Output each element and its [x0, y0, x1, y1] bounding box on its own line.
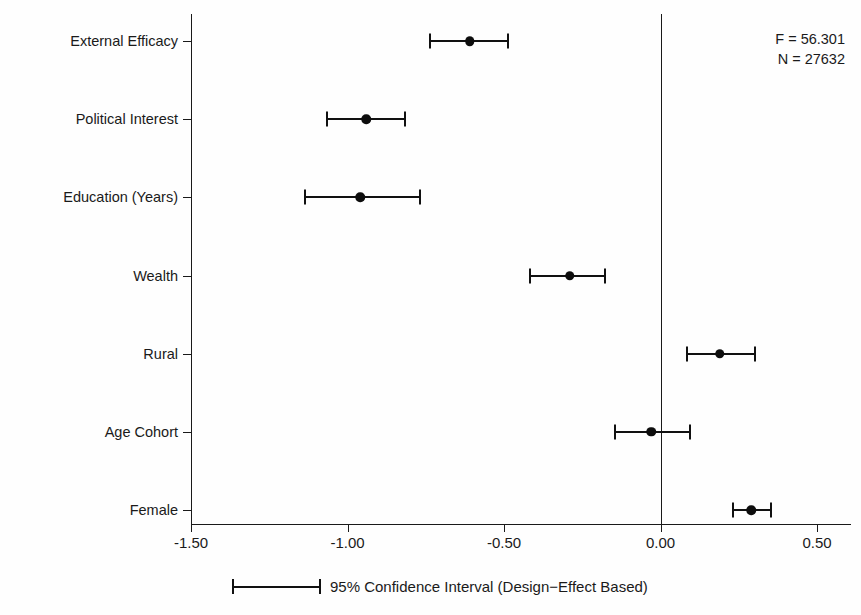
- y-axis-tick: [183, 41, 192, 42]
- estimate-point-marker: [355, 193, 365, 203]
- legend-label: 95% Confidence Interval (Design−Effect B…: [330, 579, 648, 594]
- estimate-point-marker: [465, 36, 475, 46]
- chart-legend: 95% Confidence Interval (Design−Effect B…: [232, 578, 648, 594]
- x-axis-tick: [817, 524, 818, 532]
- ci-upper-cap: [770, 503, 772, 518]
- x-axis-tick: [661, 524, 662, 532]
- category-label: Wealth: [133, 268, 178, 283]
- ci-upper-cap: [604, 268, 606, 283]
- coefficient-plot: External EfficacyPolitical InterestEduca…: [0, 0, 861, 615]
- n-observations-text: N = 27632: [775, 50, 845, 70]
- confidence-interval-icon: [232, 578, 321, 594]
- ci-upper-cap: [404, 112, 406, 127]
- ci-lower-cap: [326, 112, 328, 127]
- ci-lower-cap: [429, 34, 431, 49]
- ci-lower-cap: [529, 268, 531, 283]
- category-label: External Efficacy: [70, 34, 178, 49]
- ci-lower-cap: [304, 190, 306, 205]
- category-label: Education (Years): [63, 190, 178, 205]
- x-axis-tick: [348, 524, 349, 532]
- category-label: Rural: [143, 346, 178, 361]
- stats-annotation: F = 56.301 N = 27632: [775, 30, 845, 69]
- estimate-point-marker: [565, 271, 575, 281]
- estimate-point-marker: [747, 505, 757, 515]
- y-axis-tick: [183, 432, 192, 433]
- ci-lower-cap: [614, 424, 616, 439]
- y-axis-line: [191, 14, 192, 525]
- x-axis-tick-label: 0.00: [646, 535, 675, 550]
- ci-upper-cap: [754, 346, 756, 361]
- y-axis-tick: [183, 276, 192, 277]
- category-label: Female: [130, 503, 178, 518]
- estimate-point-marker: [362, 114, 372, 124]
- f-statistic-text: F = 56.301: [775, 30, 845, 50]
- ci-upper-cap: [689, 424, 691, 439]
- ci-upper-cap: [507, 34, 509, 49]
- x-axis-tick-label: -1.50: [174, 535, 208, 550]
- y-axis-tick: [183, 354, 192, 355]
- ci-upper-cap: [419, 190, 421, 205]
- x-axis-tick-label: -1.00: [330, 535, 364, 550]
- estimate-point-marker: [646, 427, 656, 437]
- zero-reference-line: [661, 14, 662, 525]
- ci-lower-cap: [686, 346, 688, 361]
- x-axis-tick: [504, 524, 505, 532]
- category-label: Political Interest: [76, 112, 178, 127]
- ci-lower-cap: [732, 503, 734, 518]
- x-axis-tick-label: -0.50: [487, 535, 521, 550]
- x-axis-line: [191, 524, 851, 525]
- category-label: Age Cohort: [105, 425, 178, 440]
- y-axis-tick: [183, 510, 192, 511]
- estimate-point-marker: [715, 349, 725, 359]
- y-axis-tick: [183, 197, 192, 198]
- x-axis-tick: [191, 524, 192, 532]
- x-axis-tick-label: 0.50: [802, 535, 831, 550]
- y-axis-tick: [183, 119, 192, 120]
